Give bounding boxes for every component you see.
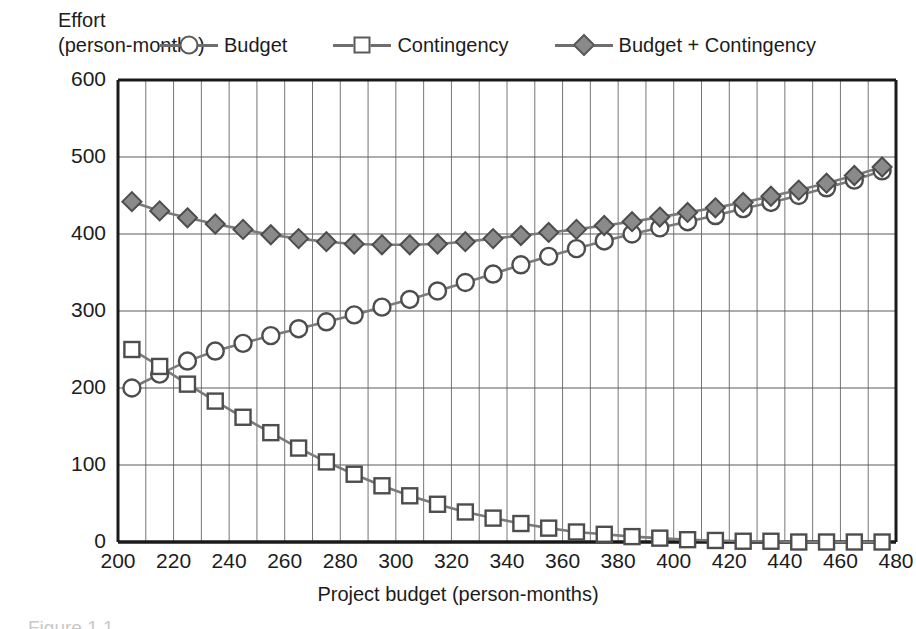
- chart-figure: Effort (person-months) Budget Contingenc…: [0, 0, 916, 629]
- x-tick-label: 460: [810, 549, 870, 573]
- y-tick-label: 400: [40, 221, 106, 245]
- x-tick-label: 400: [644, 549, 704, 573]
- x-tick-label: 320: [421, 549, 481, 573]
- x-tick-label: 240: [199, 549, 259, 573]
- x-axis-title: Project budget (person-months): [0, 583, 916, 606]
- figure-caption: Figure 1.1: [28, 617, 898, 629]
- x-tick-label: 380: [588, 549, 648, 573]
- y-tick-label: 500: [40, 144, 106, 168]
- x-tick-label: 420: [699, 549, 759, 573]
- x-tick-label: 220: [144, 549, 204, 573]
- x-tick-label: 300: [366, 549, 426, 573]
- plot-canvas: [0, 0, 916, 629]
- x-tick-label: 340: [477, 549, 537, 573]
- x-tick-label: 260: [255, 549, 315, 573]
- y-tick-label: 600: [40, 67, 106, 91]
- y-tick-label: 200: [40, 375, 106, 399]
- y-tick-label: 100: [40, 452, 106, 476]
- x-tick-label: 200: [88, 549, 148, 573]
- x-tick-label: 360: [533, 549, 593, 573]
- x-tick-label: 280: [310, 549, 370, 573]
- x-tick-label: 440: [755, 549, 815, 573]
- x-tick-label: 480: [866, 549, 916, 573]
- y-tick-label: 300: [40, 298, 106, 322]
